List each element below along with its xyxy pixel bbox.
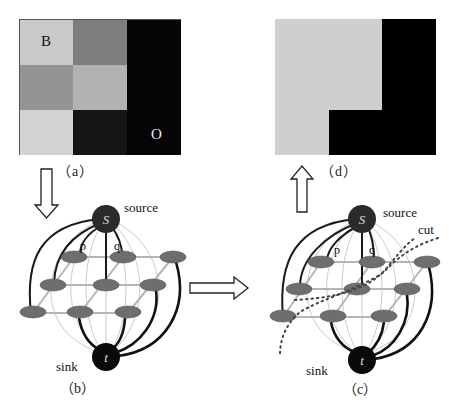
arrow-down-icon	[35, 169, 58, 218]
cut-label: cut	[418, 222, 434, 237]
pixel-node	[371, 310, 397, 322]
source-label: source	[124, 200, 158, 215]
sink-node-label: t	[360, 353, 364, 368]
graph-diagrams: S t source sink p q （b）	[0, 0, 454, 410]
pixel-node	[40, 279, 66, 291]
pixel-label-q: q	[114, 239, 120, 253]
arrow-up-icon	[291, 166, 313, 212]
pixel-node	[67, 306, 93, 318]
pixel-node	[414, 256, 440, 268]
pixel-label-q: q	[369, 243, 375, 257]
panel-b-graph: S t source sink p q	[20, 200, 186, 374]
caption-b: （b）	[60, 381, 95, 396]
caption-c: （c）	[343, 382, 377, 397]
sink-node-label: t	[104, 350, 108, 365]
pixel-node	[115, 306, 141, 318]
arrow-right-icon	[190, 277, 248, 299]
sink-label: sink	[56, 359, 78, 374]
pixel-node	[359, 256, 385, 268]
source-label: source	[383, 205, 417, 220]
pixel-node	[394, 283, 420, 295]
source-node-label: S	[359, 212, 366, 227]
pixel-node	[20, 306, 46, 318]
pixel-node	[140, 279, 166, 291]
sink-label: sink	[306, 363, 328, 378]
pixel-node	[308, 256, 334, 268]
pixel-node	[270, 310, 296, 322]
pixel-node	[320, 310, 346, 322]
pixel-label-p: p	[334, 243, 340, 257]
pixel-label-p: p	[80, 239, 86, 253]
pixel-node	[93, 279, 119, 291]
panel-c-graph: S t source cut sink p q	[270, 205, 440, 378]
pixel-node	[160, 251, 186, 263]
pixel-node	[286, 283, 312, 295]
source-node-label: S	[103, 212, 110, 227]
